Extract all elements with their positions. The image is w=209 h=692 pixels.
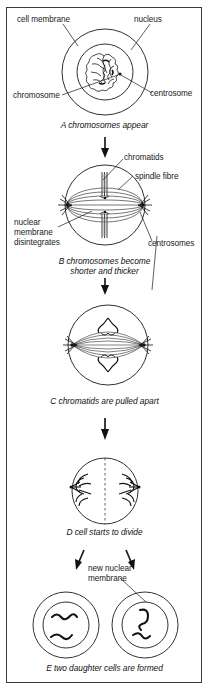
stage-d-chromosomes-left xyxy=(70,474,92,506)
label-nuclear-membrane-line-3: disintegrates xyxy=(14,238,60,248)
mitosis-figure: cell membrane nucleus chromosome centros… xyxy=(0,0,209,692)
stage-a-leaders xyxy=(62,24,152,95)
label-nuclear-membrane-line-1: nuclear xyxy=(14,218,41,228)
caption-stage-e: E two daughter cells are formed xyxy=(0,663,209,673)
label-centrosomes: centrosomes xyxy=(148,239,194,249)
stage-e-cell-right xyxy=(112,592,178,658)
label-nucleus: nucleus xyxy=(134,15,162,25)
label-nuclear-membrane-line-2: membrane xyxy=(14,228,53,238)
stage-b-chromatids-bottom xyxy=(100,212,109,238)
stage-b-spindle xyxy=(67,188,143,222)
label-centrosome: centrosome xyxy=(150,89,192,99)
caption-stage-c: C chromatids are pulled apart xyxy=(0,396,209,406)
stage-b-centromere-top xyxy=(104,197,106,199)
caption-stage-b-line-1: B chromosomes become xyxy=(0,256,209,266)
label-new-nuclear-membrane-line-2: membrane xyxy=(88,574,127,584)
caption-stage-a: A chromosomes appear xyxy=(0,120,209,130)
diagram-artwork xyxy=(0,0,209,692)
label-chromosome: chromosome xyxy=(13,91,60,101)
stage-c-centrosome-right xyxy=(139,336,153,354)
stage-b-centromere-bottom xyxy=(104,211,106,213)
stage-d-chromosomes-right xyxy=(119,474,141,506)
stage-c-centrosome-left xyxy=(63,336,77,354)
arrow-a-to-b xyxy=(101,137,109,158)
arrow-c-to-d xyxy=(101,418,109,440)
label-new-nuclear-membrane-line-1: new nuclear xyxy=(88,564,132,574)
label-spindle-fibre: spindle fibre xyxy=(135,172,179,182)
stage-e-chromosome-right xyxy=(133,610,150,639)
arrow-b-to-c xyxy=(101,278,109,295)
stage-b-chromatids-top xyxy=(100,172,109,198)
arrow-d-to-e-left xyxy=(75,550,84,570)
stage-e-cell-left xyxy=(33,592,99,658)
caption-stage-b-line-2: shorter and thicker xyxy=(0,266,209,276)
stage-c-spindle xyxy=(72,332,144,358)
stage-e-chromosome-left xyxy=(51,614,77,639)
caption-stage-d: D cell starts to divide xyxy=(0,527,209,537)
label-cell-membrane: cell membrane xyxy=(17,15,70,25)
label-chromatids: chromatids xyxy=(124,153,164,163)
